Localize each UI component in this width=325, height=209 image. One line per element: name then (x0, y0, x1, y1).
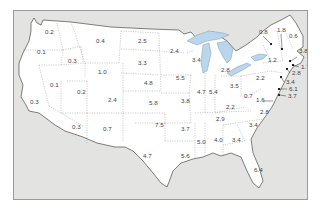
label-ky: 2.2 (226, 103, 235, 110)
label-nv: 0.1 (50, 81, 59, 88)
label-tx: 4.7 (143, 152, 152, 159)
label-nd: 2.5 (138, 37, 147, 44)
label-or: 0.1 (37, 48, 46, 55)
label-sd: 3.3 (138, 59, 147, 66)
label-la: 5.6 (181, 152, 190, 159)
label-ma: 3.8 (299, 47, 308, 54)
map-frame: 0.2 0.1 0.3 0.1 0.3 0.4 1.0 0.2 0.3 2.4 … (13, 10, 308, 200)
label-ar: 3.7 (181, 125, 190, 132)
label-nm: 0.7 (103, 125, 112, 132)
label-wa: 0.2 (45, 28, 54, 35)
label-ia: 5.5 (176, 74, 185, 81)
label-me: 0.6 (289, 32, 298, 39)
label-ms: 5.0 (197, 138, 206, 145)
label-de: 6.1 (289, 85, 298, 92)
label-ga: 3.4 (232, 136, 241, 143)
label-id: 0.3 (68, 57, 77, 64)
label-nc: 2.8 (260, 108, 269, 115)
label-az: 0.3 (72, 123, 81, 130)
label-vt: 0.8 (259, 28, 268, 35)
label-ok: 7.5 (155, 121, 164, 128)
label-oh: 3.5 (230, 82, 239, 89)
label-ct: 2.8 (292, 69, 301, 76)
label-wv: 0.7 (244, 92, 253, 99)
label-fl: 6.4 (254, 166, 263, 173)
label-wy: 1.0 (98, 68, 107, 75)
label-ks: 5.8 (149, 99, 158, 106)
label-in: 5.4 (209, 88, 218, 95)
label-il: 4.7 (197, 88, 206, 95)
label-md: 3.7 (288, 92, 297, 99)
label-ny: 1.2 (268, 56, 277, 63)
label-mn: 2.4 (170, 47, 179, 54)
label-nh: 1.8 (277, 26, 286, 33)
label-al: 4.0 (214, 136, 223, 143)
label-mi: 2.8 (221, 66, 230, 73)
label-ne: 4.8 (144, 79, 153, 86)
label-ut: 0.2 (77, 88, 86, 95)
label-sc: 3.4 (249, 121, 258, 128)
label-co: 2.4 (108, 96, 117, 103)
label-pa: 2.2 (256, 74, 265, 81)
label-va: 1.6 (256, 96, 265, 103)
label-nj: 3.4 (286, 78, 295, 85)
label-ri: 1.7 (301, 63, 308, 70)
label-wi: 3.4 (192, 56, 201, 63)
us-map: 0.2 0.1 0.3 0.1 0.3 0.4 1.0 0.2 0.3 2.4 … (14, 11, 308, 200)
label-mt: 0.4 (96, 37, 105, 44)
label-mo: 3.8 (181, 97, 190, 104)
label-tn: 2.9 (216, 115, 225, 122)
label-ca: 0.3 (30, 98, 39, 105)
